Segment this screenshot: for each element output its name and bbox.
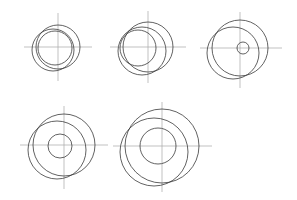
diagram-canvas xyxy=(0,0,297,200)
figure-sheet xyxy=(0,0,297,200)
